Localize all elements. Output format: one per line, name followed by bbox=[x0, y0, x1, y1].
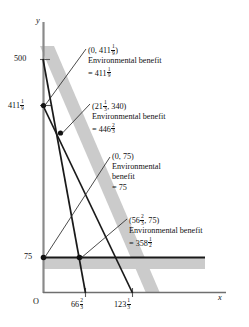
annotation-benefit-label-0-411: Environmental benefit bbox=[88, 56, 161, 66]
y-tick-411-fraction: 19 bbox=[20, 99, 24, 111]
annotation-benefit-label-21-340: Environmental benefit bbox=[92, 112, 165, 122]
origin-label: O bbox=[33, 297, 39, 306]
x-axis-label: x bbox=[218, 293, 222, 302]
x-tick-label-66: 6623 bbox=[71, 298, 83, 310]
annotation-point-21-340: (2113, 340) bbox=[92, 100, 165, 112]
leader-line-56-75 bbox=[81, 219, 127, 258]
y-tick-label-500: 500 bbox=[14, 54, 26, 63]
y-tick-label-411: 41119 bbox=[8, 99, 24, 111]
annotation-point-0-411: (0, 41119) bbox=[88, 44, 161, 56]
annotation-value-21-340: = 44623 bbox=[92, 123, 165, 135]
annotation-benefit-label-56-75: Environmental benefit bbox=[129, 226, 202, 236]
x-tick-66-fraction: 23 bbox=[80, 298, 84, 310]
annotation-vertex-0-75: (0, 75) Environmental benefit = 75 bbox=[112, 152, 161, 193]
annotation-vertex-56-75: (5623, 75) Environmental benefit = 35812 bbox=[129, 214, 202, 249]
annotation-vertex-0-411: (0, 41119) Environmental benefit = 41119 bbox=[88, 44, 161, 79]
value-fraction: 23 bbox=[111, 123, 115, 135]
x-tick-123-fraction: 13 bbox=[127, 298, 131, 310]
y-tick-411-whole: 411 bbox=[8, 101, 20, 110]
value-fraction: 19 bbox=[107, 67, 111, 79]
annotation-value-0-75: = 75 bbox=[112, 183, 161, 193]
x-tick-66-whole: 66 bbox=[71, 300, 79, 309]
annotation-benefit-label2-0-75: benefit bbox=[112, 172, 161, 182]
annotation-value-56-75: = 35812 bbox=[129, 237, 202, 249]
x-tick-123-whole: 123 bbox=[114, 300, 126, 309]
annotation-benefit-label-0-75: Environmental bbox=[112, 162, 161, 172]
annotation-value-0-411: = 41119 bbox=[88, 67, 161, 79]
annotation-point-56-75: (5623, 75) bbox=[129, 214, 202, 226]
y-axis-label: y bbox=[36, 16, 40, 25]
horizontal-shaded-band bbox=[43, 258, 205, 269]
value-fraction: 12 bbox=[148, 237, 152, 249]
linear-programming-figure: y x O 500 41119 75 6623 12313 (0, 41119)… bbox=[0, 0, 249, 327]
y-tick-label-75: 75 bbox=[24, 252, 32, 261]
annotation-vertex-21-340: (2113, 340) Environmental benefit = 4462… bbox=[92, 100, 165, 135]
annotation-point-0-75: (0, 75) bbox=[112, 152, 161, 162]
x-tick-label-123: 12313 bbox=[114, 298, 131, 310]
